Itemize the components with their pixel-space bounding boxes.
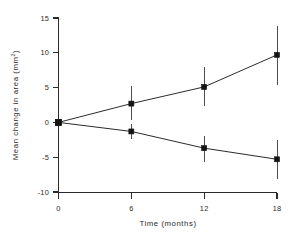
x-tick-label: 12 xyxy=(200,204,209,213)
x-axis: 061218 xyxy=(56,193,281,214)
series-lower xyxy=(56,119,280,179)
y-axis-ticks xyxy=(53,18,59,192)
y-axis-title-close-paren: ) xyxy=(11,50,20,53)
y-axis-title-base: Mean change in area (mm xyxy=(11,57,20,161)
y-tick-label: 0 xyxy=(45,118,49,127)
x-tick-label: 6 xyxy=(129,204,133,213)
line-chart-svg: 151050-5-10 061218 Time (months) Mean ch… xyxy=(0,0,295,239)
data-point-marker xyxy=(202,84,207,89)
data-point-marker xyxy=(275,52,280,57)
y-tick-label: 15 xyxy=(40,14,49,23)
data-point-marker xyxy=(202,146,207,151)
data-point-marker xyxy=(129,129,134,134)
y-tick-label: -5 xyxy=(42,153,49,162)
x-axis-ticks xyxy=(59,193,278,200)
y-tick-label: -10 xyxy=(38,188,49,197)
series-line xyxy=(59,122,278,159)
data-point-marker xyxy=(56,119,62,125)
data-point-marker xyxy=(275,157,280,162)
y-axis-title-text: Mean change in area (mm2) xyxy=(10,50,20,160)
series-upper xyxy=(56,26,280,126)
y-tick-label: 10 xyxy=(40,48,49,57)
x-axis-title: Time (months) xyxy=(139,219,196,228)
data-point-marker xyxy=(129,101,134,106)
series-line xyxy=(59,55,278,123)
data-series-layer xyxy=(56,26,280,180)
y-axis: 151050-5-10 xyxy=(38,14,59,197)
y-axis-title: Mean change in area (mm2) xyxy=(10,50,20,160)
x-tick-label: 0 xyxy=(56,204,60,213)
x-tick-label: 18 xyxy=(273,204,282,213)
y-tick-label: 5 xyxy=(45,83,49,92)
chart-figure: 151050-5-10 061218 Time (months) Mean ch… xyxy=(0,0,295,239)
x-axis-tick-labels: 061218 xyxy=(56,204,281,213)
y-axis-tick-labels: 151050-5-10 xyxy=(38,14,49,197)
